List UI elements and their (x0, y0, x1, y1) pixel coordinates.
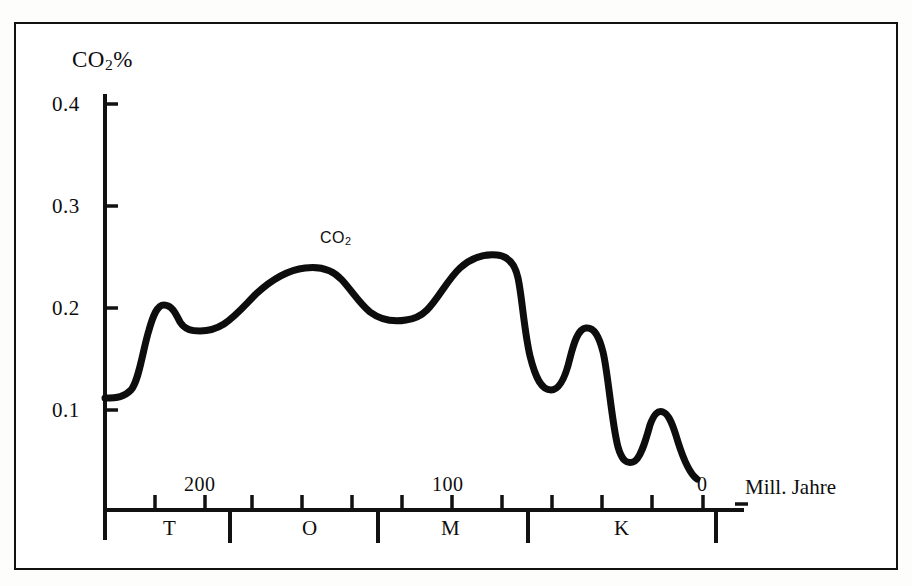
era-label-t: T (163, 518, 176, 539)
x-tick-label-100: 100 (432, 474, 464, 494)
y-tick-label-0: 0.4 (52, 94, 80, 115)
x-tick-marks (155, 495, 748, 510)
x-tick-label-200: 200 (184, 474, 216, 494)
y-axis-title: CO2% (72, 48, 133, 73)
co2-series-annotation: CO2 (320, 230, 352, 247)
co2-series-annotation-text: CO2 (320, 229, 352, 246)
co2-curve (105, 255, 697, 479)
era-label-k: K (614, 518, 630, 539)
x-tick-label-0: 0 (697, 474, 708, 494)
y-axis-title-text: CO2% (72, 47, 133, 72)
y-tick-label-3: 0.1 (52, 400, 80, 421)
x-axis-unit-label: Mill. Jahre (745, 477, 836, 498)
chart-page: CO2% 0.4 0.3 0.2 0.1 200 100 0 Mill. Jah… (0, 0, 912, 586)
y-tick-label-2: 0.2 (52, 298, 80, 319)
era-label-o: O (302, 518, 318, 539)
era-label-m: M (441, 518, 460, 539)
y-tick-label-1: 0.3 (52, 196, 80, 217)
